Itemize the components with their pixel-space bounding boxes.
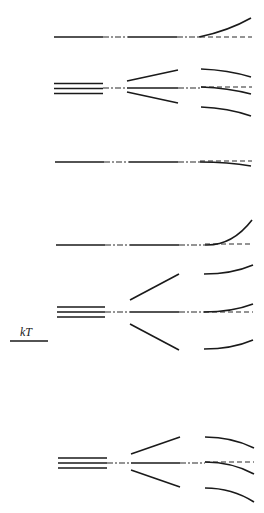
level-row-6 [58,437,254,502]
level-row-1 [54,18,252,37]
energy-level-diagram [0,0,264,513]
level-row-4 [56,220,253,245]
kt-label: kT [20,325,32,340]
level-row-5 [57,265,253,350]
level-row-3 [55,161,252,166]
level-row-2 [54,69,252,116]
